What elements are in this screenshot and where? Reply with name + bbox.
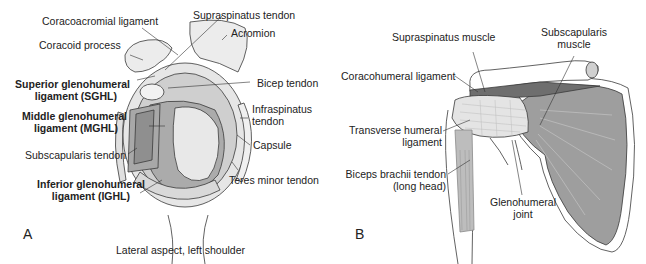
label-coracoacromial-ligament: Coracoacromial ligament: [42, 15, 158, 27]
label-supraspinatus-tendon: Supraspinatus tendon: [193, 9, 295, 21]
panel-a-drawing: [115, 15, 251, 264]
label-coracohumeral-ligament: Coracohumeral ligament: [341, 70, 455, 82]
panel-a-caption: Lateral aspect, left shoulder: [116, 244, 245, 256]
label-teres-minor-tendon: Teres minor tendon: [229, 174, 319, 186]
panel-b-drawing: [443, 52, 635, 264]
label-subscapularis-muscle-line1: Subscapularis: [534, 26, 614, 38]
label-capsule: Capsule: [253, 139, 292, 151]
label-bicep-tendon: Bicep tendon: [257, 77, 318, 89]
label-transverse-humeral-line2: ligament: [340, 136, 442, 148]
label-acromion: Acromion: [231, 27, 275, 39]
panel-a-letter: A: [23, 226, 32, 242]
label-ighl-line1: Inferior glenohumeral: [6, 178, 145, 190]
panel-b-letter: B: [355, 226, 364, 242]
label-subscapularis-tendon: Subscapularis tendon: [25, 149, 126, 161]
label-ighl-line2: ligament (IGHL): [6, 190, 130, 202]
label-infraspinatus-line2: tendon: [252, 115, 284, 127]
label-glenohumeral-joint-line1: Glenohumeral: [483, 196, 563, 208]
label-infraspinatus-line1: Infraspinatus: [252, 103, 312, 115]
label-sghl-line2: ligament (SGHL): [6, 90, 117, 102]
label-sghl-line1: Superior glenohumeral: [6, 78, 130, 90]
label-transverse-humeral-line1: Transverse humeral: [340, 124, 442, 136]
label-glenohumeral-joint-line2: joint: [483, 208, 563, 220]
label-mghl-line2: ligament (MGHL): [6, 122, 118, 134]
label-biceps-brachii-line2: (long head): [330, 180, 446, 192]
label-subscapularis-muscle-line2: muscle: [534, 38, 614, 50]
label-biceps-brachii-line1: Biceps brachii tendon: [330, 168, 446, 180]
label-mghl-line1: Middle glenohumeral: [6, 110, 127, 122]
label-coracoid-process: Coracoid process: [39, 39, 121, 51]
label-supraspinatus-muscle: Supraspinatus muscle: [392, 31, 495, 43]
